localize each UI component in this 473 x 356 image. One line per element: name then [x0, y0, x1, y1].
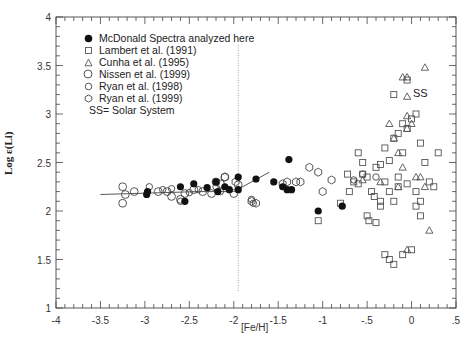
data-point	[204, 184, 211, 191]
data-point	[386, 189, 392, 195]
data-point	[421, 183, 428, 189]
open-square-icon	[83, 45, 93, 55]
svg-text:3: 3	[45, 109, 51, 120]
legend-item-lambert: Lambert et al. (1991)	[83, 44, 254, 56]
data-point	[285, 156, 292, 163]
data-point	[386, 158, 392, 164]
data-point	[159, 186, 165, 192]
svg-text:-3.5: -3.5	[92, 315, 110, 326]
legend-item-mcdonald: McDonald Spectra analyzed here	[83, 32, 254, 44]
data-point	[190, 180, 197, 187]
svg-text:4: 4	[45, 12, 51, 23]
data-point	[351, 177, 357, 183]
legend-note: SS= Solar System	[83, 104, 254, 116]
legend-item-ryan-1998: Ryan et al. (1998)	[83, 80, 254, 92]
data-point	[404, 93, 411, 99]
data-point	[297, 178, 304, 186]
data-point	[422, 160, 428, 166]
data-point	[360, 160, 366, 166]
data-point	[386, 120, 393, 126]
data-point	[235, 173, 242, 180]
data-point	[221, 173, 228, 181]
data-point	[319, 188, 326, 196]
data-point	[435, 150, 441, 156]
data-point	[355, 150, 361, 156]
svg-text:2.5: 2.5	[37, 158, 51, 169]
y-axis-label: Log ε(Li)	[2, 131, 14, 175]
data-point	[121, 191, 129, 199]
data-point	[413, 189, 419, 195]
data-point	[253, 199, 260, 207]
data-point	[315, 218, 321, 224]
data-point	[235, 186, 242, 193]
data-point	[373, 220, 379, 226]
svg-text:2: 2	[45, 206, 51, 217]
data-point	[421, 64, 428, 70]
svg-text:1.5: 1.5	[37, 255, 51, 266]
data-point	[212, 178, 219, 185]
x-axis-label: [Fe/H]	[241, 322, 268, 333]
data-point	[315, 207, 322, 214]
svg-text:0: 0	[409, 315, 415, 326]
svg-text:-3: -3	[140, 315, 149, 326]
data-point	[288, 186, 295, 193]
legend-item-ryan-1999: Ryan et al. (1999)	[83, 92, 254, 104]
svg-text:1: 1	[45, 303, 51, 314]
data-point	[270, 178, 277, 185]
data-point	[399, 164, 406, 170]
data-point	[346, 189, 352, 195]
data-point	[345, 171, 351, 177]
data-point	[119, 199, 127, 207]
data-point	[417, 140, 423, 146]
data-point	[226, 186, 233, 193]
data-point	[315, 168, 322, 176]
data-point	[404, 181, 410, 187]
svg-text:-1.5: -1.5	[270, 315, 288, 326]
data-point	[339, 203, 346, 210]
legend-item-nissen: Nissen et al. (1999)	[83, 68, 254, 80]
trend-line	[100, 172, 269, 194]
legend-item-cunha: Cunha et al. (1995)	[83, 56, 254, 68]
data-point	[417, 213, 423, 219]
data-point	[177, 183, 184, 190]
data-point	[119, 183, 127, 191]
data-point	[328, 176, 335, 184]
open-hexagon-icon	[83, 93, 93, 103]
data-point	[144, 188, 151, 195]
data-point	[395, 174, 401, 180]
legend-label: Ryan et al. (1999)	[99, 92, 182, 104]
solar-system-label: SS	[413, 87, 428, 99]
legend-label: Cunha et al. (1995)	[99, 56, 189, 68]
data-point	[130, 188, 138, 196]
data-point	[181, 198, 188, 205]
svg-text:-2: -2	[229, 315, 238, 326]
svg-text:-1: -1	[318, 315, 327, 326]
data-point	[154, 188, 162, 196]
svg-text:-2.5: -2.5	[181, 315, 199, 326]
open-circle-small-icon	[83, 81, 93, 91]
svg-text:3.5: 3.5	[37, 61, 51, 72]
data-point	[181, 190, 189, 198]
legend: McDonald Spectra analyzed here Lambert e…	[83, 32, 254, 116]
data-point	[252, 175, 259, 182]
data-point	[426, 227, 433, 233]
open-triangle-icon	[83, 57, 93, 67]
data-point	[168, 193, 176, 201]
svg-text:.5: .5	[452, 315, 461, 326]
svg-text:-4: -4	[52, 315, 61, 326]
legend-label: Lambert et al. (1991)	[99, 44, 196, 56]
data-point	[214, 188, 221, 195]
filled-circle-icon	[83, 33, 93, 43]
legend-label: McDonald Spectra analyzed here	[99, 32, 254, 44]
data-point	[373, 174, 379, 180]
svg-text:-.5: -.5	[361, 315, 373, 326]
data-point	[391, 92, 397, 98]
data-point	[306, 163, 313, 171]
open-circle-icon	[83, 69, 93, 79]
data-point	[391, 198, 397, 204]
legend-label: Nissen et al. (1999)	[99, 68, 190, 80]
data-point	[382, 145, 388, 151]
legend-label: Ryan et al. (1998)	[99, 80, 182, 92]
